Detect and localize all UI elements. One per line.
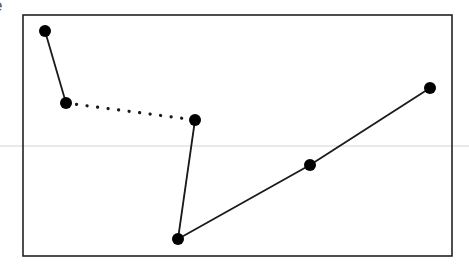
- edge-p4-p5: [178, 165, 310, 239]
- edge-p5-p6: [310, 88, 430, 165]
- edges-group: [45, 31, 430, 239]
- edge-p3-p4: [178, 120, 195, 239]
- diagram-canvas: [0, 0, 469, 270]
- edge-p2-p3: [66, 103, 195, 120]
- edge-p1-p2: [45, 31, 66, 103]
- point-p4: [172, 233, 184, 245]
- points-group: [39, 25, 436, 245]
- point-p1: [39, 25, 51, 37]
- point-p6: [424, 82, 436, 94]
- point-p2: [60, 97, 72, 109]
- point-p5: [304, 159, 316, 171]
- point-p3: [189, 114, 201, 126]
- diagram-frame: [23, 15, 452, 256]
